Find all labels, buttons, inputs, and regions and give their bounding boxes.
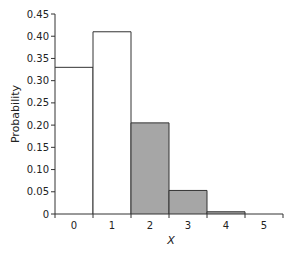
x-tick-label: 1 [109,220,115,231]
y-tick-label: 0.20 [27,120,49,131]
x-axis-title: X [166,234,175,247]
bar-1 [93,32,131,214]
y-axis-title: Probability [9,84,22,143]
x-tick-label: 2 [147,220,153,231]
y-axis: 00.050.100.150.200.250.300.350.400.45 [27,9,55,220]
probability-histogram: 00.050.100.150.200.250.300.350.400.45 01… [0,0,297,258]
y-tick-label: 0 [43,209,49,220]
x-tick-label: 4 [223,220,229,231]
bar-2 [131,123,169,214]
y-tick-label: 0.25 [27,97,49,108]
y-tick-label: 0.45 [27,9,49,20]
x-tick-label: 3 [185,220,191,231]
x-tick-label: 0 [71,220,77,231]
y-tick-label: 0.40 [27,31,49,42]
bar-0 [55,67,93,214]
bars [55,32,245,214]
x-axis: 012345 [55,214,283,231]
y-tick-label: 0.30 [27,75,49,86]
x-tick-label: 5 [261,220,267,231]
bar-3 [169,190,207,214]
y-tick-label: 0.10 [27,164,49,175]
y-tick-label: 0.35 [27,53,49,64]
y-tick-label: 0.15 [27,142,49,153]
y-tick-label: 0.05 [27,186,49,197]
